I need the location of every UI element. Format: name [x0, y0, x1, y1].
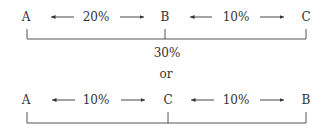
point-label: A: [21, 93, 31, 107]
point-label: C: [301, 10, 310, 24]
diagram-canvas: A B C 20% 10% 30% or A C B 10% 10%: [0, 0, 323, 130]
bracket: [27, 29, 306, 39]
point-label: B: [161, 10, 170, 24]
total-label: 30%: [154, 46, 181, 60]
connector-label: or: [160, 67, 173, 81]
point-label: B: [302, 93, 311, 107]
bracket: [27, 112, 306, 123]
segment-label: 10%: [223, 93, 250, 107]
point-label: A: [21, 10, 31, 24]
segment-label: 20%: [83, 10, 110, 24]
bottom-row: A C B 10% 10%: [21, 93, 311, 123]
segment-label: 10%: [83, 93, 110, 107]
segment-label: 10%: [223, 10, 250, 24]
point-label: C: [163, 93, 172, 107]
top-row: A B C 20% 10% 30%: [21, 10, 311, 60]
